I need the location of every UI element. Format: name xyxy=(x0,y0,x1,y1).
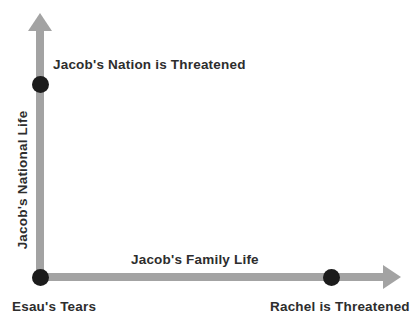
up-arrowhead-icon xyxy=(28,13,52,31)
point-label-nation-threatened: Jacob's Nation is Threatened xyxy=(53,57,246,72)
x-axis-label: Jacob's Family Life xyxy=(131,252,259,267)
point-label-esaus-tears: Esau's Tears xyxy=(12,299,96,314)
right-arrowhead-icon xyxy=(383,265,401,289)
diagram-canvas: Jacob's Nation is Threatened Jacob's Nat… xyxy=(0,0,416,331)
y-axis-line xyxy=(36,28,44,281)
data-point-dot-rachel xyxy=(323,269,340,286)
data-point-dot-nation xyxy=(32,76,49,93)
y-axis-label: Jacob's National Life xyxy=(15,111,30,250)
point-label-rachel-threatened: Rachel is Threatened xyxy=(270,299,410,314)
data-point-dot-origin xyxy=(32,269,49,286)
